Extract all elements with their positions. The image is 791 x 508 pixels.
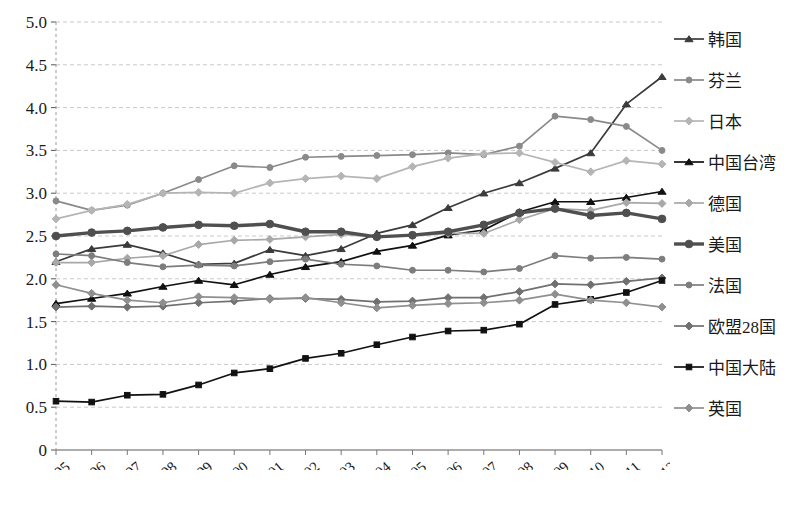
- data-point: [658, 74, 666, 80]
- legend-item-3[interactable]: 中国台湾: [672, 141, 791, 182]
- x-axis-tick-label: 1998: [146, 458, 179, 470]
- y-axis-tick-label: 0.5: [26, 398, 47, 417]
- data-point: [659, 278, 665, 284]
- legend-marker: [686, 77, 692, 83]
- data-point: [88, 206, 96, 214]
- legend-marker-icon: [672, 398, 706, 418]
- data-point: [231, 163, 237, 169]
- data-point: [373, 233, 381, 241]
- plot-area: 5.04.54.03.53.02.52.01.51.00.50199519961…: [0, 0, 670, 470]
- data-point: [230, 189, 238, 197]
- x-axis-tick-label: 2006: [432, 458, 466, 470]
- data-point: [659, 256, 665, 262]
- series-3: [52, 188, 666, 306]
- data-point: [551, 280, 559, 288]
- legend-item-5[interactable]: 美国: [672, 223, 791, 264]
- data-point: [588, 117, 594, 123]
- data-point: [267, 366, 273, 372]
- data-point: [231, 370, 237, 376]
- legend-marker: [685, 322, 693, 330]
- data-point: [88, 302, 96, 310]
- legend-item-label: 中国台湾: [706, 149, 776, 174]
- data-point: [410, 334, 416, 340]
- data-point: [53, 398, 59, 404]
- data-point: [622, 299, 630, 307]
- data-point: [516, 143, 522, 149]
- legend-item-1[interactable]: 芬兰: [672, 59, 791, 100]
- legend-marker: [685, 404, 693, 412]
- legend-item-9[interactable]: 英国: [672, 387, 791, 428]
- data-point: [195, 293, 203, 301]
- legend-item-2[interactable]: 日本: [672, 100, 791, 141]
- x-axis-tick-label: 2007: [467, 458, 501, 470]
- x-axis-tick-label: 2002: [289, 458, 322, 470]
- data-point: [337, 172, 345, 180]
- data-point: [195, 188, 203, 196]
- data-point: [516, 209, 524, 217]
- data-point: [552, 302, 558, 308]
- data-point: [374, 342, 380, 348]
- legend-marker: [685, 240, 693, 248]
- x-axis-tick-label: 2008: [503, 458, 536, 470]
- data-point: [516, 266, 522, 272]
- data-point: [303, 154, 309, 160]
- series-line: [56, 285, 662, 308]
- legend-item-7[interactable]: 欧盟28国: [672, 305, 791, 346]
- data-point: [374, 263, 380, 269]
- data-point: [124, 260, 130, 266]
- data-point: [88, 289, 96, 297]
- legend-item-0[interactable]: 韩国: [672, 18, 791, 59]
- data-point: [481, 269, 487, 275]
- data-point: [338, 261, 344, 267]
- data-point: [302, 294, 310, 302]
- data-point: [552, 113, 558, 119]
- data-point: [409, 152, 415, 158]
- data-point: [658, 215, 666, 223]
- data-point: [481, 327, 487, 333]
- data-point: [587, 281, 595, 289]
- y-axis-tick-label: 4.0: [26, 99, 47, 118]
- series-line: [56, 191, 662, 303]
- data-point: [551, 158, 559, 166]
- data-point: [338, 350, 344, 356]
- x-axis-tick-label: 2001: [253, 458, 286, 470]
- data-point: [373, 304, 381, 312]
- legend-item-4[interactable]: 德国: [672, 182, 791, 223]
- data-point: [445, 267, 451, 273]
- data-point: [623, 123, 629, 129]
- legend-item-6[interactable]: 法国: [672, 264, 791, 305]
- legend-item-label: 英国: [706, 395, 742, 420]
- x-axis-tick-label: 1997: [111, 458, 145, 470]
- data-point: [159, 189, 167, 197]
- legend-item-label: 美国: [706, 231, 742, 256]
- y-axis-tick-label: 4.5: [26, 56, 47, 75]
- x-axis-tick-label: 2011: [610, 458, 643, 470]
- x-axis-tick-label: 2005: [396, 458, 429, 470]
- y-axis-tick-label: 3.5: [26, 141, 47, 160]
- legend-marker-icon: [672, 193, 706, 213]
- legend-marker-icon: [672, 70, 706, 90]
- data-point: [89, 253, 95, 259]
- x-axis-tick-label: 2004: [360, 458, 394, 470]
- x-axis-tick-label: 1996: [75, 458, 109, 470]
- data-point: [196, 382, 202, 388]
- legend-item-label: 芬兰: [706, 67, 742, 92]
- data-point: [53, 198, 59, 204]
- data-point: [303, 256, 309, 262]
- legend-marker-icon: [672, 234, 706, 254]
- legend-item-8[interactable]: 中国大陆: [672, 346, 791, 387]
- data-point: [52, 215, 60, 223]
- legend-item-label: 法国: [706, 272, 742, 297]
- data-point: [196, 262, 202, 268]
- data-point: [123, 296, 131, 304]
- data-point: [551, 205, 559, 213]
- legend-marker: [685, 199, 693, 207]
- data-point: [52, 232, 60, 240]
- data-point: [267, 259, 273, 265]
- data-point: [302, 228, 310, 236]
- data-point: [373, 175, 381, 183]
- data-point: [231, 263, 237, 269]
- x-axis-tick-label: 2000: [218, 458, 251, 470]
- data-point: [125, 392, 131, 398]
- data-point: [658, 200, 666, 208]
